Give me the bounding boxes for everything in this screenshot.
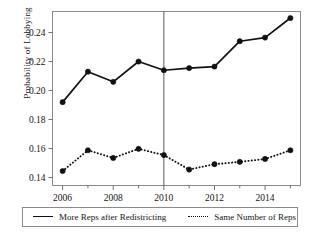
data-point xyxy=(85,148,90,153)
solid-line-icon xyxy=(33,213,53,221)
legend-entry-same-reps: Same Number of Reps xyxy=(188,212,296,222)
x-tick-label: 2014 xyxy=(256,193,275,203)
y-tick-label: 0.14 xyxy=(29,173,46,183)
data-point xyxy=(187,167,192,172)
data-point xyxy=(262,156,267,161)
data-point xyxy=(288,15,293,20)
data-point xyxy=(212,162,217,167)
data-point xyxy=(212,64,217,69)
x-tick-label: 2010 xyxy=(154,193,173,203)
data-point xyxy=(161,152,166,157)
plot-area: 0.140.160.180.200.220.242006200820102012… xyxy=(0,0,320,238)
y-tick-label: 0.20 xyxy=(29,86,46,96)
legend-entry-more-reps: More Reps after Redistricting xyxy=(33,212,166,222)
data-point xyxy=(288,148,293,153)
data-point xyxy=(111,79,116,84)
y-tick-label: 0.18 xyxy=(29,115,46,125)
data-point xyxy=(85,69,90,74)
legend-label-same-reps: Same Number of Reps xyxy=(214,212,296,222)
data-point xyxy=(136,146,141,151)
data-point xyxy=(136,59,141,64)
data-point xyxy=(161,68,166,73)
y-tick-label: 0.24 xyxy=(29,28,46,38)
x-tick-label: 2012 xyxy=(205,193,224,203)
y-tick-label: 0.22 xyxy=(29,57,46,67)
data-point xyxy=(60,100,65,105)
data-point xyxy=(111,155,116,160)
x-tick-label: 2008 xyxy=(104,193,123,203)
x-tick-label: 2006 xyxy=(53,193,72,203)
data-point xyxy=(60,168,65,173)
data-point xyxy=(237,39,242,44)
caption-strip xyxy=(0,231,320,238)
y-tick-label: 0.16 xyxy=(29,144,46,154)
data-point xyxy=(187,65,192,70)
chart-legend: More Reps after Redistricting Same Numbe… xyxy=(22,207,298,227)
data-point xyxy=(262,35,267,40)
chart-figure: Probability of Lobbying 0.140.160.180.20… xyxy=(0,0,320,238)
data-point xyxy=(237,159,242,164)
legend-label-more-reps: More Reps after Redistricting xyxy=(59,212,166,222)
dotted-line-icon xyxy=(188,213,208,221)
